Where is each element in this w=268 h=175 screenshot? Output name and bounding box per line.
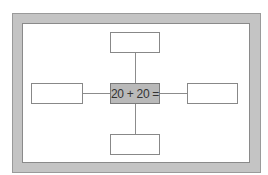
branch-box-bottom [110, 134, 160, 155]
branch-box-top [110, 32, 160, 53]
branch-box-right [187, 83, 238, 104]
connector-bottom [135, 104, 136, 134]
connector-top [135, 53, 136, 83]
center-box: 20 + 20 = [110, 83, 160, 104]
connector-right [160, 93, 187, 94]
connector-left [83, 93, 110, 94]
branch-box-left [31, 83, 83, 104]
